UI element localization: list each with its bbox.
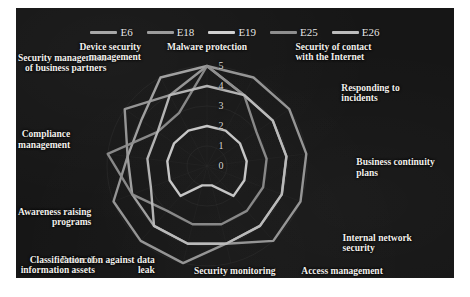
legend-label-e26: E26	[362, 27, 380, 38]
grid-spoke-9	[113, 166, 207, 201]
series-polygon-e18	[114, 66, 307, 263]
legend-item-e6[interactable]: E6	[90, 27, 132, 38]
legend-item-e26[interactable]: E26	[332, 27, 380, 38]
legend-swatch-e25	[270, 31, 297, 34]
chart-legend: E6E18E19E25E26	[16, 22, 454, 42]
legend-label-e25: E25	[300, 27, 318, 38]
legend-swatch-e19	[208, 31, 235, 34]
radar-chart	[16, 8, 454, 278]
legend-item-e18[interactable]: E18	[147, 27, 195, 38]
legend-label-e18: E18	[177, 27, 195, 38]
legend-item-e19[interactable]: E19	[208, 27, 256, 38]
legend-swatch-e18	[147, 31, 174, 34]
grid-spoke-6	[207, 166, 231, 263]
chart-panel: E6E18E19E25E26 Malware protection Securi…	[16, 8, 454, 278]
legend-label-e6: E6	[120, 27, 132, 38]
grid-spoke-7	[183, 166, 207, 263]
legend-swatch-e6	[90, 31, 117, 34]
grid-spoke-4	[207, 166, 301, 201]
screenshot-root: E6E18E19E25E26 Malware protection Securi…	[0, 0, 470, 297]
legend-swatch-e26	[332, 31, 359, 34]
legend-item-e25[interactable]: E25	[270, 27, 318, 38]
legend-label-e19: E19	[238, 27, 256, 38]
